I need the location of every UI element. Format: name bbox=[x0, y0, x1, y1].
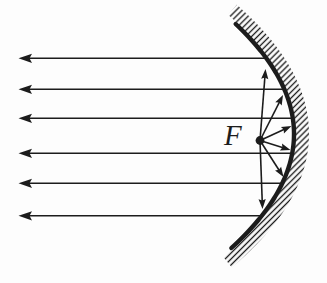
focal-ray bbox=[260, 141, 262, 204]
diagram-svg bbox=[0, 0, 327, 283]
focus-point bbox=[256, 136, 265, 145]
focal-ray-arrowhead bbox=[275, 167, 283, 177]
figure-stage: F bbox=[0, 0, 327, 283]
focus-label: F bbox=[224, 121, 242, 150]
